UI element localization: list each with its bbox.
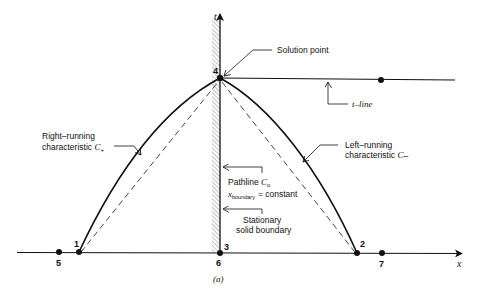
left-running-leader <box>303 145 338 162</box>
point-2 <box>354 250 360 256</box>
solution-point-leader <box>224 50 272 76</box>
solid-boundary-hatch <box>212 18 220 252</box>
t-line-leader <box>328 82 348 104</box>
right-running-dashed-approx <box>81 82 218 252</box>
right-running-label-line2: characteristic C+ <box>42 142 104 153</box>
stationary-boundary-leader <box>223 209 262 214</box>
characteristics-diagram: 4 1 2 3 5 6 7 x t Solution point t–line … <box>0 0 478 302</box>
t-axis-label: t <box>214 11 217 22</box>
point-7 <box>379 250 385 256</box>
stationary-label-line2: solid boundary <box>236 225 292 235</box>
point-label-4: 4 <box>213 66 218 76</box>
x-axis-label: x <box>456 258 462 269</box>
point-label-6: 6 <box>216 258 221 268</box>
pathline-label: Pathline Co <box>228 177 271 188</box>
point-1 <box>76 249 82 255</box>
point-label-5: 5 <box>56 258 61 268</box>
right-running-label-line1: Right–running <box>42 131 95 141</box>
t-line-point <box>378 77 384 83</box>
point-label-1: 1 <box>74 239 79 249</box>
x-axis <box>17 253 462 254</box>
point-label-7: 7 <box>379 259 384 269</box>
t-line <box>220 78 455 80</box>
t-line-label: t–line <box>352 99 373 109</box>
pathline-leader <box>223 167 262 173</box>
stationary-label-line1: Stationary <box>243 215 282 225</box>
figure-caption: (a) <box>213 274 224 284</box>
point-label-3: 3 <box>224 242 229 252</box>
right-running-characteristic-curve <box>79 78 220 252</box>
solution-point-label: Solution point <box>277 45 329 55</box>
point-label-2: 2 <box>360 239 365 249</box>
left-running-label-line2: characteristic C– <box>345 150 408 161</box>
x-boundary-label: xboundary= constant <box>227 189 298 200</box>
point-3-6 <box>217 250 223 256</box>
left-running-label-line1: Left–running <box>345 140 393 150</box>
point-5 <box>56 249 62 255</box>
